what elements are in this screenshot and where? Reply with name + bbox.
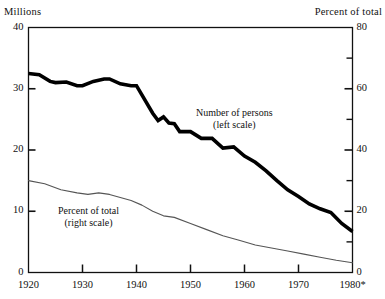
right-axis-ticks: [345, 58, 353, 242]
x-axis-ticks: [83, 265, 299, 273]
x-tick-label-1930: 1930: [60, 279, 106, 290]
annotation-percent-of-total: Percent of total (right scale): [58, 205, 119, 229]
x-tick-label-1980: 1980*: [330, 279, 376, 290]
plot-frame: [29, 28, 353, 273]
left-tick-label-20: 20: [13, 143, 24, 154]
left-tick-label-0: 0: [18, 266, 23, 277]
x-tick-label-1940: 1940: [114, 279, 160, 290]
x-tick-label-1970: 1970: [276, 279, 322, 290]
plot-area: [0, 0, 385, 299]
x-tick-label-1920: 1920: [6, 279, 52, 290]
left-tick-label-10: 10: [13, 204, 24, 215]
right-tick-label-80: 80: [357, 21, 368, 32]
right-tick-label-60: 60: [357, 82, 368, 93]
left-tick-label-40: 40: [13, 21, 24, 32]
right-tick-label-0: 0: [357, 266, 362, 277]
x-tick-label-1960: 1960: [222, 279, 268, 290]
right-tick-label-20: 20: [357, 204, 368, 215]
left-tick-label-30: 30: [13, 82, 24, 93]
chart-figure: Millions Percent of total 010203040 0204…: [0, 0, 385, 299]
x-tick-label-1950: 1950: [168, 279, 214, 290]
left-axis-ticks: [29, 89, 36, 212]
annotation-percent-line1: Percent of total: [58, 205, 119, 217]
annotation-number-of-persons: Number of persons (left scale): [196, 107, 273, 131]
right-tick-label-40: 40: [357, 143, 368, 154]
annotation-persons-line1: Number of persons: [196, 107, 273, 119]
annotation-persons-line2: (left scale): [196, 119, 273, 131]
annotation-percent-line2: (right scale): [58, 217, 119, 229]
